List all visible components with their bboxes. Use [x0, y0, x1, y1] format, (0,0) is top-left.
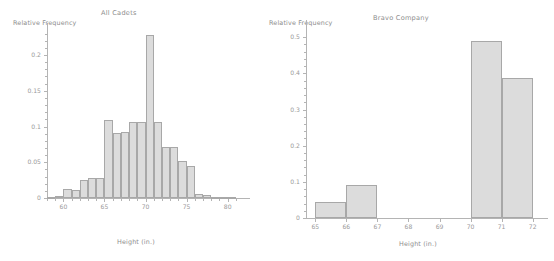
x-axis-minor-tick [219, 199, 220, 201]
y-axis-minor-tick [304, 88, 306, 89]
histogram-bar [121, 132, 129, 198]
histogram-bar [137, 122, 145, 198]
x-axis-minor-tick [88, 199, 89, 201]
x-axis-tick [408, 219, 409, 222]
y-axis-minor-tick [304, 52, 306, 53]
x-axis-tick [63, 199, 64, 202]
x-axis-tick-label: 70 [459, 223, 483, 230]
histogram-bar [162, 147, 170, 198]
x-axis-tick [471, 219, 472, 222]
y-axis-tick [303, 73, 306, 74]
y-axis-tick [303, 110, 306, 111]
y-axis-tick [303, 182, 306, 183]
y-axis-minor-tick [304, 131, 306, 132]
y-axis-minor-tick [45, 41, 47, 42]
y-axis-minor-tick [304, 81, 306, 82]
histogram-bar [104, 120, 112, 198]
x-axis-minor-tick [203, 199, 204, 201]
y-axis-tick-label: 0.1 [13, 123, 41, 130]
y-axis-minor-tick [45, 112, 47, 113]
y-axis-minor-tick [45, 141, 47, 142]
y-axis-tick [303, 37, 306, 38]
y-axis-tick-label: 0.2 [272, 142, 300, 149]
x-axis-tick-label: 67 [365, 223, 389, 230]
x-axis-minor-tick [154, 199, 155, 201]
x-axis-tick [187, 199, 188, 202]
x-axis-minor-tick [195, 199, 196, 201]
histogram-bar [113, 133, 121, 198]
x-axis-tick [502, 219, 503, 222]
y-axis-minor-tick [304, 102, 306, 103]
x-axis-tick [346, 219, 347, 222]
y-axis-minor-tick [304, 59, 306, 60]
chart-panel-bravo-company: Bravo Company Relative Frequency Height … [277, 0, 554, 261]
y-axis-minor-tick [45, 98, 47, 99]
x-axis-tick-label: 80 [216, 203, 240, 210]
y-axis-minor-tick [304, 211, 306, 212]
x-axis-minor-tick [170, 199, 171, 201]
x-axis-minor-tick [121, 199, 122, 201]
x-axis-tick-label: 70 [134, 203, 158, 210]
x-axis-minor-tick [113, 199, 114, 201]
x-axis-tick-label: 60 [51, 203, 75, 210]
histogram-bar [187, 166, 195, 198]
x-axis-minor-tick [137, 199, 138, 201]
histogram-bar [346, 185, 377, 218]
y-axis-minor-tick [304, 95, 306, 96]
histogram-figure: All Cadets Relative Frequency Height (in… [0, 0, 554, 261]
histogram-bar [146, 35, 154, 198]
histogram-bar [203, 195, 211, 198]
y-axis-minor-tick [304, 204, 306, 205]
histogram-bar [154, 122, 162, 198]
y-axis-tick [44, 91, 47, 92]
y-axis-minor-tick [304, 138, 306, 139]
y-axis-tick-label: 0 [272, 214, 300, 221]
histogram-bar [471, 41, 502, 218]
y-axis-tick [44, 162, 47, 163]
x-axis-tick-label: 75 [175, 203, 199, 210]
x-axis-tick-label: 68 [396, 223, 420, 230]
histogram-bar [502, 78, 533, 218]
y-axis-tick-label: 0.4 [272, 69, 300, 76]
y-axis-minor-tick [304, 44, 306, 45]
x-axis-tick-label: 65 [92, 203, 116, 210]
y-axis-tick-label: 0 [13, 194, 41, 201]
x-axis-tick-label: 72 [521, 223, 545, 230]
y-axis-tick [303, 218, 306, 219]
histogram-bar [129, 122, 137, 198]
y-axis-tick-label: 0.5 [272, 33, 300, 40]
y-axis-minor-tick [45, 169, 47, 170]
y-axis-minor-tick [304, 66, 306, 67]
y-axis-minor-tick [304, 160, 306, 161]
x-axis-tick-label: 66 [334, 223, 358, 230]
plot-area-bravo-company: 00.10.20.30.40.56566676869707172 [277, 0, 554, 261]
x-axis-tick [533, 219, 534, 222]
y-axis-minor-tick [45, 48, 47, 49]
x-axis-minor-tick [47, 199, 48, 201]
y-axis-minor-tick [45, 34, 47, 35]
y-axis-minor-tick [304, 175, 306, 176]
histogram-bar [47, 197, 55, 199]
y-axis-tick [44, 127, 47, 128]
x-axis-tick [146, 199, 147, 202]
x-axis-minor-tick [80, 199, 81, 201]
y-axis-tick-label: 0.1 [272, 178, 300, 185]
y-axis-minor-tick [45, 134, 47, 135]
y-axis-minor-tick [45, 69, 47, 70]
histogram-bar [170, 147, 178, 198]
x-axis-tick [440, 219, 441, 222]
y-axis-tick-label: 0.2 [13, 51, 41, 58]
y-axis-minor-tick [45, 119, 47, 120]
y-axis-minor-tick [304, 117, 306, 118]
y-axis-minor-tick [45, 191, 47, 192]
x-axis-tick [228, 199, 229, 202]
x-axis-minor-tick [129, 199, 130, 201]
x-axis-tick-label: 71 [490, 223, 514, 230]
y-axis-minor-tick [304, 196, 306, 197]
y-axis-tick-label: 0.3 [272, 106, 300, 113]
x-axis-tick [315, 219, 316, 222]
x-axis-minor-tick [96, 199, 97, 201]
x-axis-minor-tick [178, 199, 179, 201]
histogram-bar [195, 194, 203, 198]
y-axis-minor-tick [304, 167, 306, 168]
